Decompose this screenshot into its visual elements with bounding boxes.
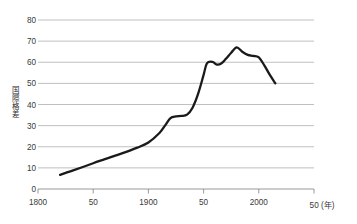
gridlines <box>38 20 314 168</box>
x-axis-ticks <box>38 189 314 194</box>
line-chart: 国際格差 80 70 60 50 40 30 20 10 0 1800 50 1… <box>0 0 357 224</box>
data-line-kokusai-kakusa <box>60 47 275 174</box>
plot-area <box>0 0 357 224</box>
